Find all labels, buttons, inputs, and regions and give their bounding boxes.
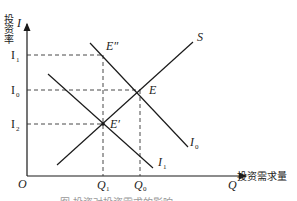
svg-text:0: 0	[195, 143, 199, 151]
svg-text:0: 0	[143, 185, 147, 193]
y-tick-I1: I 1	[11, 48, 20, 64]
svg-text:I: I	[11, 83, 15, 97]
svg-text:Q: Q	[97, 178, 106, 192]
curve-I1	[48, 74, 153, 168]
curve-S	[57, 42, 193, 165]
svg-text:2: 2	[16, 125, 20, 133]
y-axis-label-cn: 投资率	[3, 13, 14, 45]
svg-text:1: 1	[16, 56, 20, 64]
curve-I0-label: I 0	[189, 135, 199, 151]
y-tick-I2: I 2	[11, 117, 20, 133]
x-axis-label-cn: 投资需求量	[237, 170, 287, 182]
point-E-label: E	[148, 83, 157, 97]
curve-S-label: S	[197, 30, 203, 44]
guide-lines	[27, 55, 140, 176]
x-tick-Q1: Q 1	[97, 178, 110, 193]
svg-text:I: I	[11, 117, 15, 131]
origin-label: O	[18, 177, 27, 191]
svg-text:1: 1	[106, 185, 110, 193]
svg-text:Q: Q	[134, 178, 143, 192]
investment-demand-diagram: 投资率 I I 1 I 0 I 2 O Q 1 Q 0 Q 投资需求量 S I …	[0, 0, 297, 201]
curve-I1-label: I 1	[157, 155, 167, 171]
figure-caption: 图 投资对投资需求的影响	[60, 196, 173, 201]
x-axis-symbol: Q	[228, 178, 237, 192]
point-E-prime	[101, 122, 105, 126]
point-E-double-prime-label: E″	[105, 39, 119, 53]
y-axis-symbol: I	[16, 16, 22, 30]
svg-text:I: I	[11, 48, 15, 62]
svg-text:0: 0	[16, 91, 20, 99]
y-tick-I0: I 0	[11, 83, 20, 99]
svg-text:1: 1	[163, 163, 167, 171]
point-E-prime-label: E′	[109, 117, 120, 131]
x-tick-Q0: Q 0	[134, 178, 147, 193]
curve-I0	[90, 43, 188, 147]
